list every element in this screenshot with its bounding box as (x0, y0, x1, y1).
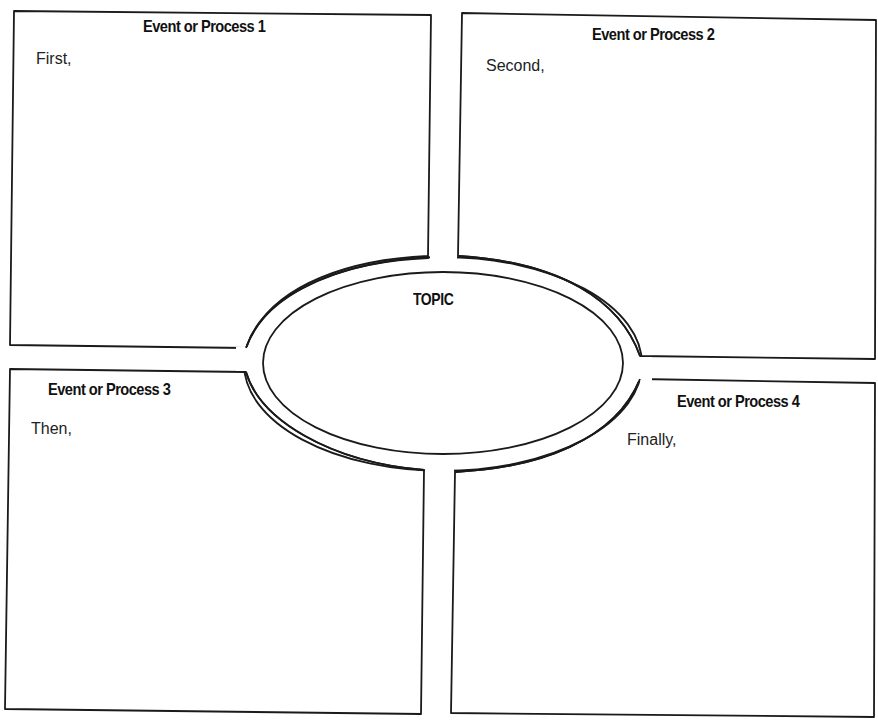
box-3-title: Event or Process 3 (48, 380, 170, 400)
box-1-writing-area[interactable] (20, 75, 420, 245)
box-2-title: Event or Process 2 (592, 25, 714, 45)
topic-writing-area[interactable] (300, 315, 586, 435)
box-3-prompt: Then, (31, 420, 72, 438)
box-4-prompt: Finally, (627, 431, 677, 449)
box-4-writing-area[interactable] (462, 480, 867, 705)
box-3-writing-area[interactable] (15, 480, 415, 705)
box-2-writing-area[interactable] (470, 85, 865, 250)
box-2-prompt: Second, (486, 57, 545, 75)
box-1-title: Event or Process 1 (143, 17, 265, 37)
box-4-title: Event or Process 4 (677, 392, 799, 412)
box-1-prompt: First, (36, 50, 72, 68)
topic-label: TOPIC (413, 290, 453, 310)
